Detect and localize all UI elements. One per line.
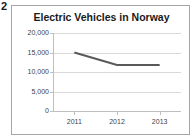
chart-frame: Electric Vehicles in Norway 05,00010,000… xyxy=(11,5,190,135)
x-tick xyxy=(160,112,161,115)
x-tick xyxy=(74,112,75,115)
y-axis-tick-label: 10,000 xyxy=(11,68,49,76)
y-axis-tick-label: 20,000 xyxy=(11,29,49,37)
x-axis-tick-label: 2011 xyxy=(54,117,94,126)
chart-title: Electric Vehicles in Norway xyxy=(12,11,191,24)
figure-container: 2 Electric Vehicles in Norway 05,00010,0… xyxy=(0,0,193,138)
data-series-line xyxy=(53,33,181,111)
plot-area: 05,00010,00015,00020,000 201120122013 xyxy=(53,33,181,111)
y-axis-tick-label: 15,000 xyxy=(11,49,49,57)
y-axis-tick-label: 0 xyxy=(11,107,49,115)
series-polyline xyxy=(74,53,159,65)
x-tick xyxy=(117,112,118,115)
y-axis-tick-label: 5,000 xyxy=(11,88,49,96)
x-axis-tick-label: 2012 xyxy=(97,117,137,126)
x-axis-tick-label: 2013 xyxy=(140,117,180,126)
figure-number-label: 2 xyxy=(1,0,7,12)
